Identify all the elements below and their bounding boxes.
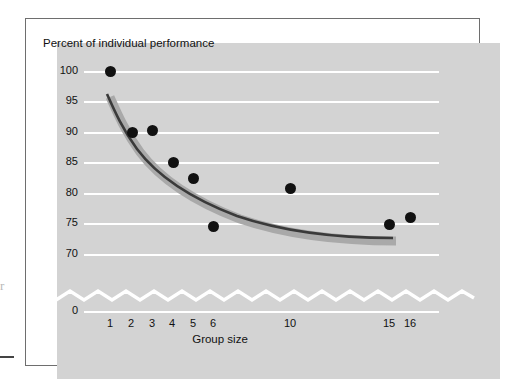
ytick-label-95: 95 [36,95,78,106]
ytick-label-80: 80 [36,187,78,198]
page-rule-bleed [0,356,14,358]
ytick-label-85: 85 [36,156,78,167]
ytick-label-70: 70 [36,248,78,259]
ytick-0-wrap: 0 [36,305,78,317]
gridline-95 [84,101,439,103]
ytick-95-wrap: 95 [36,95,78,107]
gridline-80 [84,193,439,195]
figure-container: r Percent of individual performance 100 … [0,0,508,389]
ytick-label-100: 100 [36,65,78,76]
ytick-70-wrap: 70 [36,248,78,260]
page-text-bleed: r [0,279,4,292]
x-axis-title: Group size [192,333,248,345]
gridline-100 [84,71,439,73]
chart-title: Percent of individual performance [43,37,214,49]
ytick-label-75: 75 [36,217,78,228]
gridline-75 [84,223,439,225]
ytick-85-wrap: 85 [36,156,78,168]
ytick-75-wrap: 75 [36,217,78,229]
xtick-label-10: 10 [277,318,303,329]
xtick-label-16: 16 [397,318,423,329]
ytick-80-wrap: 80 [36,187,78,199]
x-axis-title-container: Group size [0,333,508,345]
ytick-100-wrap: 100 [36,65,78,77]
gridline-0 [84,311,439,313]
gridline-70 [84,254,439,256]
ytick-label-90: 90 [36,126,78,137]
ytick-label-0: 0 [36,305,78,316]
xtick-label-6: 6 [200,318,226,329]
ytick-90-wrap: 90 [36,126,78,138]
gridline-90 [84,132,439,134]
gridline-85 [84,162,439,164]
